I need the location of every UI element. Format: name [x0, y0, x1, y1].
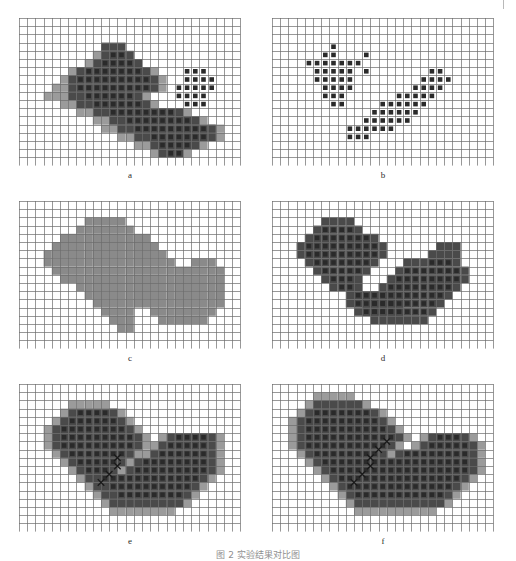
panel-e-canvas: [19, 384, 241, 532]
panel-f-grid: [272, 384, 494, 532]
panel-c-canvas: [19, 201, 241, 349]
panel-b-grid: [272, 18, 494, 166]
panel-c: c: [19, 201, 241, 349]
panel-a-canvas: [19, 18, 241, 166]
panel-c-label: c: [19, 353, 241, 363]
panel-d-label: d: [272, 353, 494, 363]
panel-b-label: b: [272, 170, 494, 180]
panel-a-grid: [19, 18, 241, 166]
figure-caption: 图 2 实验结果对比图: [0, 549, 516, 561]
panel-b-canvas: [272, 18, 494, 166]
panel-e-grid: [19, 384, 241, 532]
panel-d-grid: [272, 201, 494, 349]
panel-a: a: [19, 18, 241, 166]
panel-f-label: f: [272, 536, 494, 546]
panel-d-canvas: [272, 201, 494, 349]
panel-e: e: [19, 384, 241, 532]
page-edge-mark: [503, 0, 504, 9]
panel-e-label: e: [19, 536, 241, 546]
panel-a-label: a: [19, 170, 241, 180]
panel-f: f: [272, 384, 494, 532]
panel-c-grid: [19, 201, 241, 349]
panel-d: d: [272, 201, 494, 349]
figure-container: a b c d e f 图 2 实验结果对比图: [0, 0, 516, 561]
panel-f-canvas: [272, 384, 494, 532]
panel-b: b: [272, 18, 494, 166]
